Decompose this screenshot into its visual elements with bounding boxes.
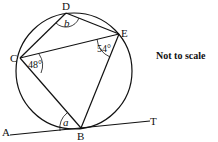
not-to-scale-note: Not to scale — [156, 50, 205, 61]
label-E: E — [121, 27, 128, 39]
circle — [16, 13, 132, 129]
angle-54: 54° — [97, 43, 111, 54]
label-D: D — [62, 0, 70, 12]
label-A: A — [2, 126, 10, 138]
angle-b: b — [64, 17, 70, 29]
label-T: T — [150, 115, 157, 127]
angle-48: 48° — [28, 59, 42, 70]
circle-theorem-diagram: D E C B A T b 48° 54° a — [0, 0, 218, 142]
segment-CD — [20, 13, 66, 58]
label-C: C — [10, 52, 17, 64]
angle-a: a — [63, 116, 69, 128]
label-B: B — [77, 130, 84, 142]
